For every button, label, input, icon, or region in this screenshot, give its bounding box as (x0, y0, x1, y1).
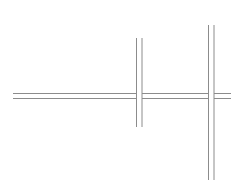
line-diagram (0, 0, 239, 187)
